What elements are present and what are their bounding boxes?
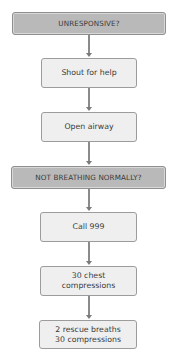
node-30-chest-compressions: 30 chest compressions	[40, 266, 137, 296]
node-label: UNRESPONSIVE?	[58, 19, 119, 28]
arrow-down-icon	[86, 53, 92, 57]
connector-4-5	[88, 189, 90, 208]
node-label: 30 chest compressions	[62, 271, 116, 290]
node-call-999: Call 999	[40, 212, 137, 242]
node-label: Call 999	[73, 222, 105, 232]
connector-5-6	[88, 242, 90, 262]
node-label: NOT BREATHING NORMALLY?	[35, 173, 141, 182]
node-shout-for-help: Shout for help	[41, 58, 137, 88]
connector-6-7	[88, 296, 90, 316]
arrow-down-icon	[86, 261, 92, 265]
connector-1-2	[88, 35, 90, 54]
node-unresponsive: UNRESPONSIVE?	[12, 12, 166, 35]
arrow-down-icon	[86, 315, 92, 319]
node-label: Open airway	[64, 122, 113, 132]
node-open-airway: Open airway	[41, 112, 137, 142]
arrow-down-icon	[86, 107, 92, 111]
connector-3-4	[88, 142, 90, 162]
node-label: Shout for help	[61, 68, 116, 78]
arrow-down-icon	[86, 161, 92, 165]
node-not-breathing-normally: NOT BREATHING NORMALLY?	[11, 166, 166, 189]
cpr-flowchart: UNRESPONSIVE? Shout for help Open airway…	[0, 0, 177, 360]
arrow-down-icon	[86, 207, 92, 211]
node-label: 2 rescue breaths 30 compressions	[55, 325, 121, 344]
connector-2-3	[88, 88, 90, 108]
node-rescue-breaths-compressions: 2 rescue breaths 30 compressions	[39, 320, 137, 349]
